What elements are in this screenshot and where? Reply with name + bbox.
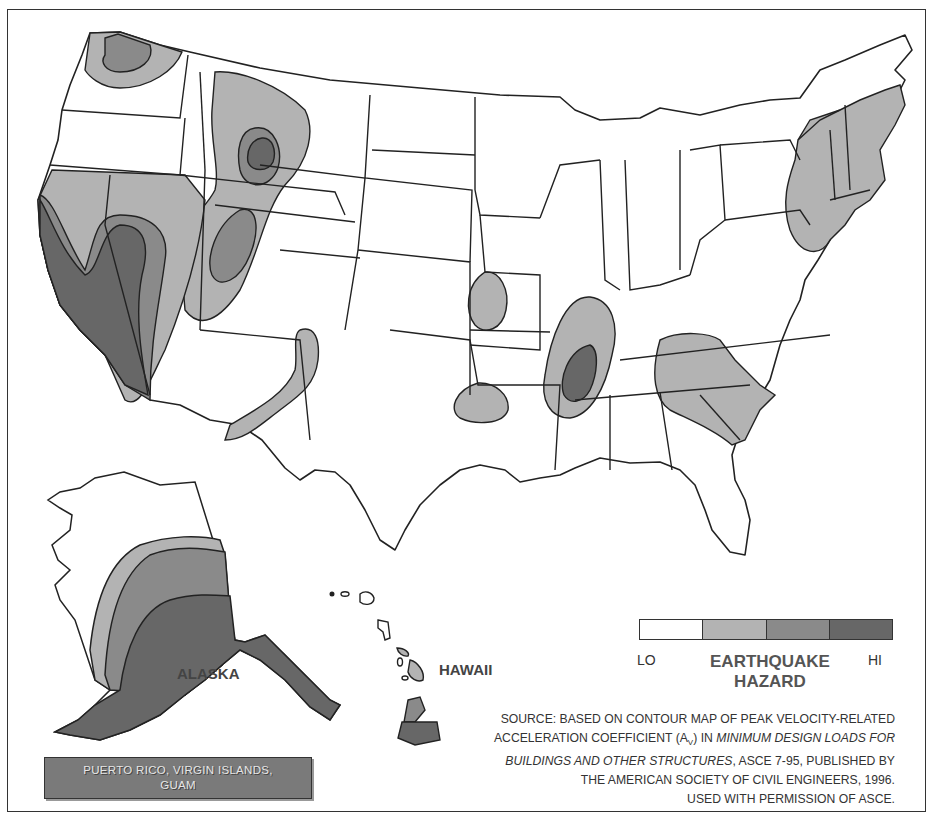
source-line-1: SOURCE: BASED ON CONTOUR MAP OF PEAK VEL…: [425, 710, 895, 729]
source-line-3-rest: , ASCE 7-95, PUBLISHED BY: [732, 754, 895, 768]
hazard-legend-bar: [639, 619, 893, 640]
legend-swatch-low-mid: [703, 620, 766, 639]
source-citation: SOURCE: BASED ON CONTOUR MAP OF PEAK VEL…: [425, 710, 895, 809]
source-line-2: ACCELERATION COEFFICIENT (AV) IN MINIMUM…: [425, 729, 895, 752]
source-line-4: THE AMERICAN SOCIETY OF CIVIL ENGINEERS,…: [425, 771, 895, 790]
source-line-5: USED WITH PERMISSION OF ASCE.: [425, 790, 895, 809]
source-line-2-text: ACCELERATION COEFFICIENT (A: [494, 731, 688, 745]
alaska-map: [48, 472, 340, 740]
source-line-2-mid: ) IN: [693, 731, 716, 745]
legend-lo-label: LO: [637, 652, 656, 668]
legend-swatch-hi: [830, 620, 892, 639]
source-line-3: BUILDINGS AND OTHER STRUCTURES, ASCE 7-9…: [425, 752, 895, 771]
source-publication-title-part1: MINIMUM DESIGN LOADS FOR: [716, 731, 895, 745]
territories-label-line1: PUERTO RICO, VIRGIN ISLANDS,: [45, 763, 311, 778]
legend-title-line1: EARTHQUAKE: [700, 652, 840, 672]
legend-swatch-high-mid: [767, 620, 830, 639]
source-publication-title-part2: BUILDINGS AND OTHER STRUCTURES: [505, 754, 732, 768]
legend-hi-label: HI: [868, 652, 882, 668]
hawaii-map: [330, 592, 440, 745]
territories-label-box: PUERTO RICO, VIRGIN ISLANDS, GUAM: [44, 757, 312, 799]
legend-title-line2: HAZARD: [700, 672, 840, 692]
legend-title: EARTHQUAKE HAZARD: [700, 652, 840, 692]
legend-swatch-lo: [640, 620, 703, 639]
us-earthquake-hazard-map: [0, 0, 929, 817]
territories-label-line2: GUAM: [45, 778, 311, 793]
alaska-label: ALASKA: [177, 665, 240, 682]
hawaii-label: HAWAII: [439, 661, 492, 678]
